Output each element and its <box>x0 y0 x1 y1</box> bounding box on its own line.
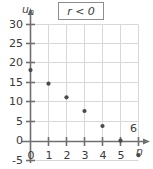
y-axis-label: un <box>22 4 34 17</box>
y-tick-label: -5 <box>0 155 23 166</box>
x-tick-label: 1 <box>43 150 55 161</box>
y-axis <box>28 8 34 163</box>
y-tick-label: 0 <box>2 135 23 146</box>
chart-title-box: r < 0 <box>58 2 104 20</box>
y-tick-label: 20 <box>2 57 23 68</box>
y-tick-label: 30 <box>2 19 23 30</box>
y-axis-label-text: u <box>22 3 29 16</box>
y-tick-label: 10 <box>2 96 23 107</box>
y-axis-label-subscript: n <box>29 8 34 17</box>
x-axis <box>22 139 150 145</box>
x-axis-arrow <box>143 139 150 145</box>
data-point <box>82 109 86 113</box>
y-tick-label: 25 <box>2 38 23 49</box>
x-tick-label: 3 <box>79 150 91 161</box>
page-title: r < 0 <box>67 6 95 17</box>
data-point <box>46 82 50 86</box>
y-tick-label: 15 <box>2 77 23 88</box>
y-tick-label: 5 <box>2 116 23 127</box>
data-point <box>100 124 104 128</box>
x-axis-label: n <box>136 146 143 157</box>
data-point <box>118 139 122 143</box>
x-axis-end-label: 6 <box>130 123 137 134</box>
x-tick-label: 0 <box>25 150 37 161</box>
x-tick-label: 2 <box>61 150 73 161</box>
x-tick-label: 5 <box>115 150 127 161</box>
data-point <box>28 68 32 72</box>
data-point <box>64 95 68 99</box>
x-tick-label: 4 <box>97 150 109 161</box>
scatter-plot-figure: r < 0 un n 6 30 25 20 15 10 5 0 -5 0 1 2… <box>0 0 153 169</box>
